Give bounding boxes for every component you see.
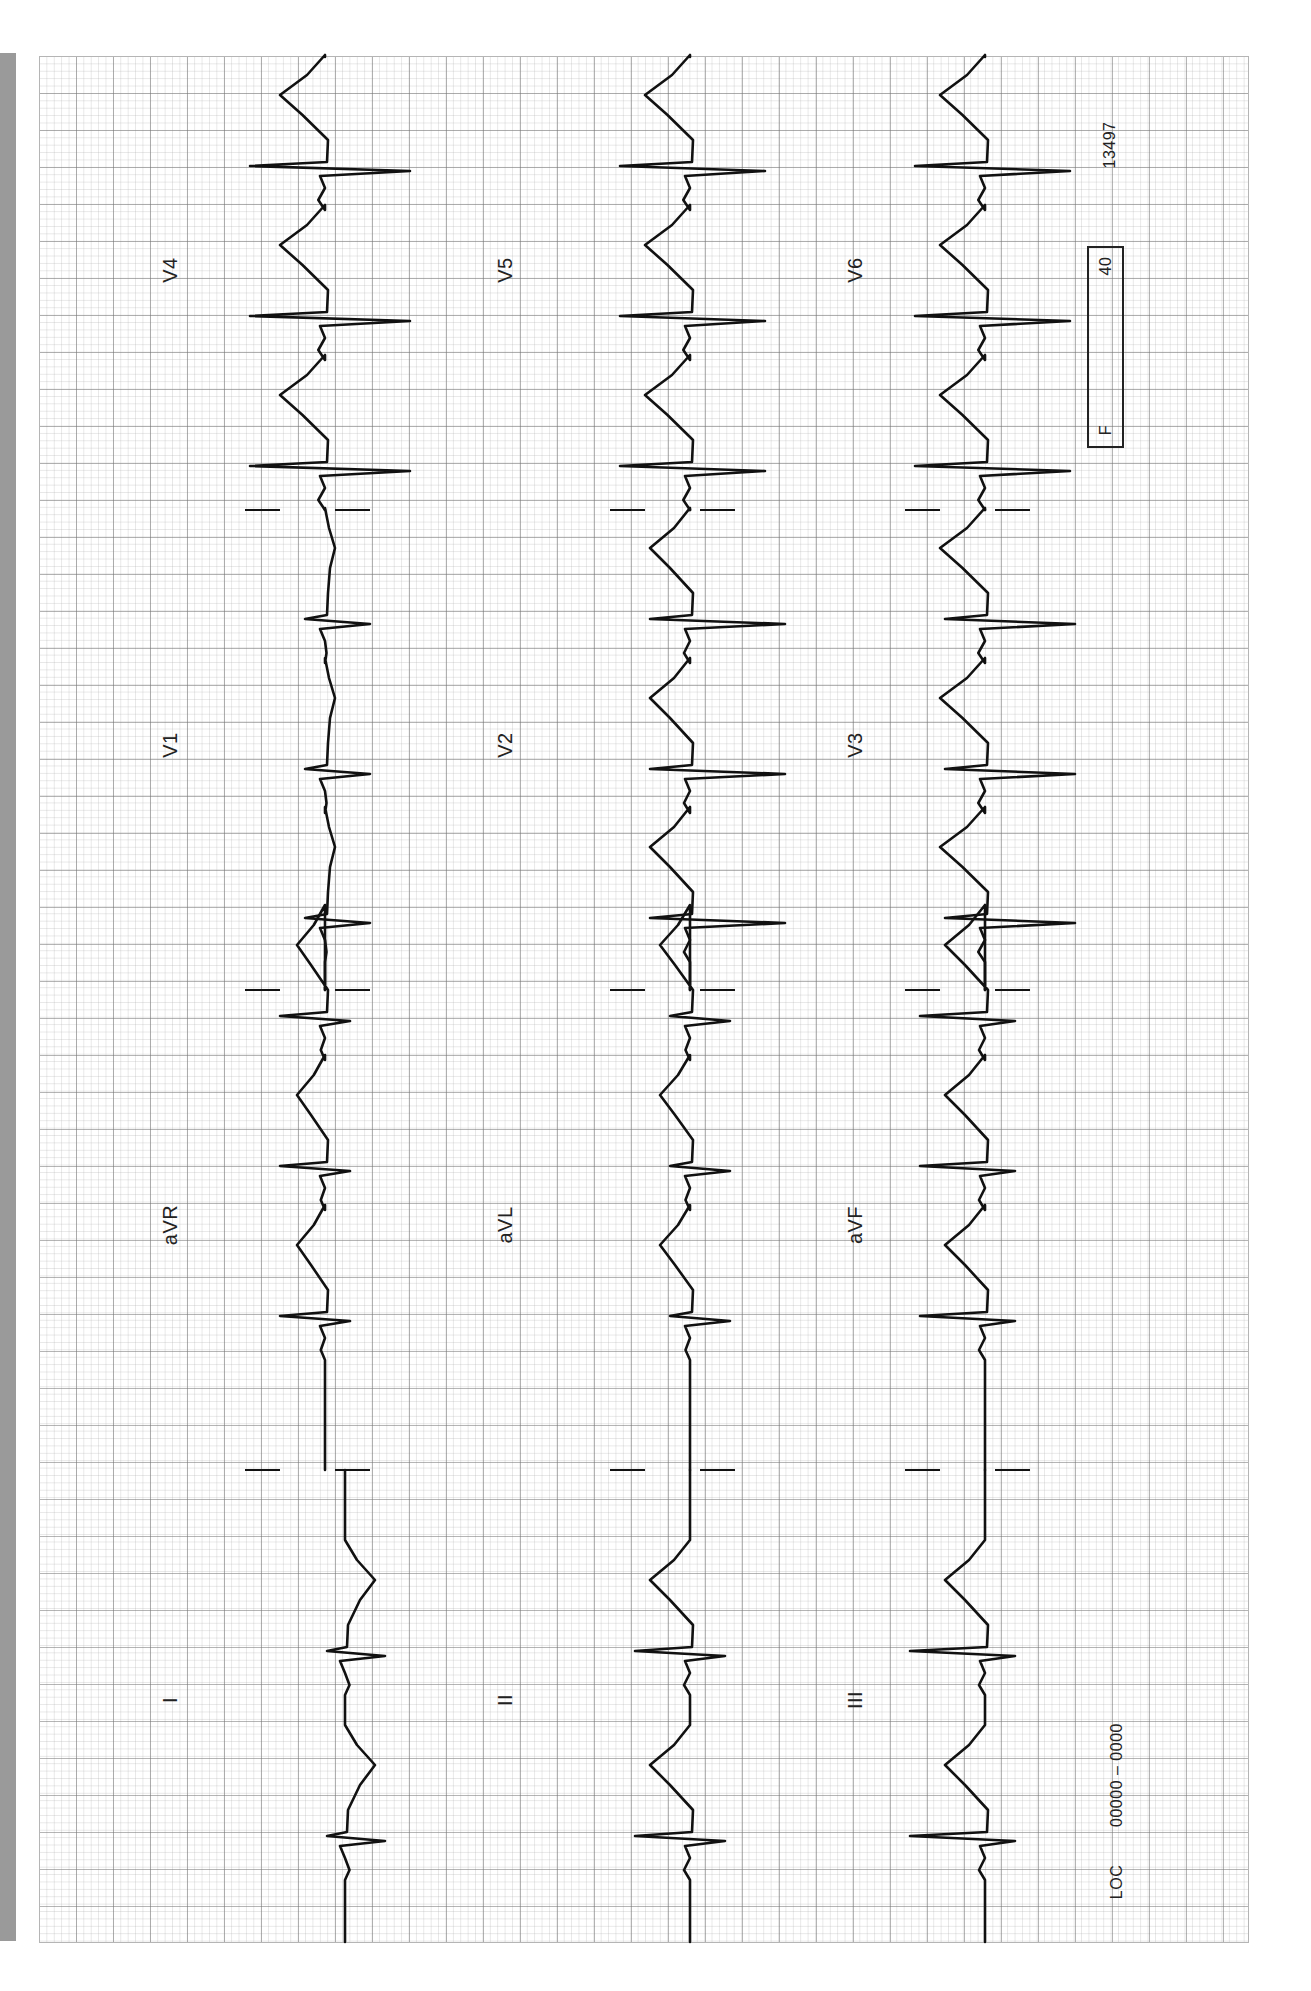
trace-V6 [915,55,1070,510]
record-number: 13497 [1101,122,1119,169]
trace-III [910,1470,1015,1942]
lead-label-aVR: aVR [159,1205,182,1245]
filter-value: 40 [1097,257,1115,276]
lead-label-I: I [159,1697,182,1703]
lead-label-II: II [494,1694,517,1706]
lead-label-V3: V3 [844,732,867,757]
lead-label-III: III [844,1691,867,1709]
trace-II [635,1470,725,1942]
lead-label-V1: V1 [159,732,182,757]
lead-label-V2: V2 [494,732,517,757]
trace-V4 [250,55,410,510]
filter-box [1087,246,1124,448]
lead-label-aVL: aVL [494,1206,517,1243]
trace-V2 [650,508,785,990]
trace-V3 [940,508,1075,990]
lead-label-V6: V6 [844,257,867,282]
lead-label-V4: V4 [159,257,182,282]
lead-label-aVF: aVF [844,1206,867,1244]
location-label: LOC [1108,1865,1126,1899]
trace-V1 [305,508,370,990]
location-code: 00000 – 0000 [1108,1723,1126,1827]
lead-label-V5: V5 [494,257,517,282]
trace-I [327,1470,385,1942]
trace-V5 [620,55,765,510]
filter-label: F [1097,425,1115,435]
